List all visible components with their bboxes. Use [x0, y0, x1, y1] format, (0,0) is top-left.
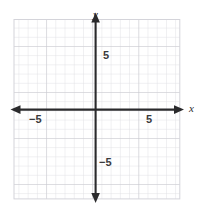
y-axis-name-label: y	[93, 9, 98, 20]
y-axis-tick-label-positive-5: 5	[103, 50, 109, 61]
x-axis-tick-label-positive-5: 5	[146, 114, 152, 125]
y-axis-tick-label-negative-5: −5	[99, 157, 112, 168]
x-axis-name-label: x	[189, 103, 194, 114]
coordinate-plane-figure: −5 5 5 −5 x y	[0, 0, 204, 216]
x-axis-tick-label-negative-5: −5	[29, 114, 42, 125]
coordinate-plane-canvas	[0, 0, 204, 216]
